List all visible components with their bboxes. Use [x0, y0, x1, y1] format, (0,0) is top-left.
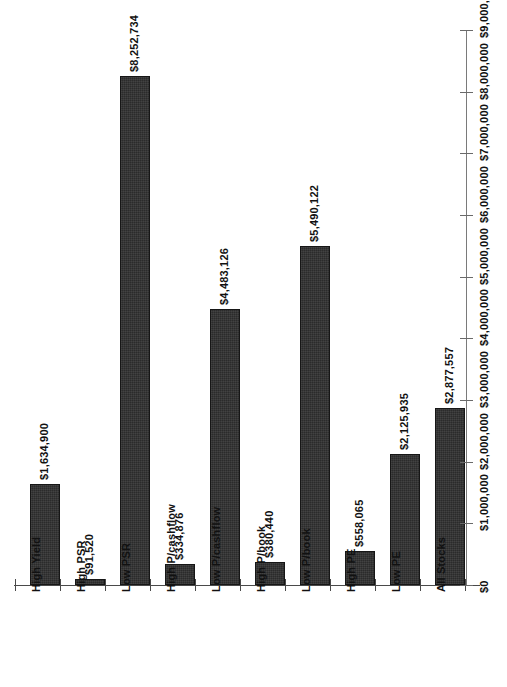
- y-axis-tick-label: $1,000,000: [478, 474, 490, 531]
- y-axis-tick: [460, 277, 473, 278]
- y-axis-line: [466, 30, 467, 586]
- x-axis-tick: [195, 579, 196, 591]
- y-axis-tick: [460, 585, 473, 586]
- y-axis-tick-label: $3,000,000: [478, 351, 490, 408]
- category-label: Low PSR: [120, 543, 132, 592]
- bar: [120, 76, 150, 585]
- y-axis-tick: [460, 30, 473, 31]
- y-axis-tick-label: $0: [478, 580, 490, 593]
- x-axis-tick: [60, 579, 61, 591]
- bar-value-label: $5,490,122: [308, 185, 320, 242]
- y-axis-tick: [460, 215, 473, 216]
- category-label: High PE: [345, 548, 357, 592]
- bar-value-label: $1,634,900: [38, 423, 50, 480]
- y-axis-tick-label: $6,000,000: [478, 166, 490, 223]
- y-axis-tick: [460, 462, 473, 463]
- x-axis-tick: [285, 579, 286, 591]
- x-axis-tick: [240, 579, 241, 591]
- category-label: High PSR: [75, 540, 87, 592]
- x-axis-tick: [420, 579, 421, 591]
- category-label: Low P/book: [300, 528, 312, 592]
- category-label: Low P/cashflow: [210, 507, 222, 592]
- y-axis-tick-label: $7,000,000: [478, 104, 490, 161]
- category-label: High P/cashflow: [165, 504, 177, 592]
- y-axis-tick-label: $8,000,000: [478, 43, 490, 100]
- y-axis-tick-label: $2,000,000: [478, 413, 490, 470]
- y-axis-tick-label: $5,000,000: [478, 228, 490, 285]
- plot-area: $1,634,900 $91,520 $8,252,734 $334,876 $…: [0, 0, 507, 687]
- category-label: High Yield: [30, 537, 42, 592]
- x-axis-tick: [15, 579, 16, 591]
- bar-value-label: $4,483,126: [218, 247, 230, 304]
- category-label: Low PE: [390, 551, 402, 592]
- bar-value-label: $2,125,935: [398, 393, 410, 450]
- y-axis-tick-label: $4,000,000: [478, 289, 490, 346]
- x-axis-tick: [150, 579, 151, 591]
- y-axis-tick: [460, 153, 473, 154]
- x-axis-tick: [105, 579, 106, 591]
- x-axis-tick: [330, 579, 331, 591]
- bar-chart: $1,634,900 $91,520 $8,252,734 $334,876 $…: [0, 0, 507, 687]
- category-label: High P/book: [255, 526, 267, 592]
- bar-value-label: $558,065: [353, 499, 365, 546]
- bar-value-label: $8,252,734: [128, 15, 140, 72]
- y-axis-tick: [460, 92, 473, 93]
- x-axis-tick: [375, 579, 376, 591]
- y-axis-tick: [460, 400, 473, 401]
- y-axis-tick-label: $9,000,000: [478, 0, 490, 38]
- category-label: All Stocks: [435, 537, 447, 592]
- y-axis-tick: [460, 523, 473, 524]
- bar-value-label: $2,877,557: [443, 347, 455, 404]
- y-axis-tick: [460, 338, 473, 339]
